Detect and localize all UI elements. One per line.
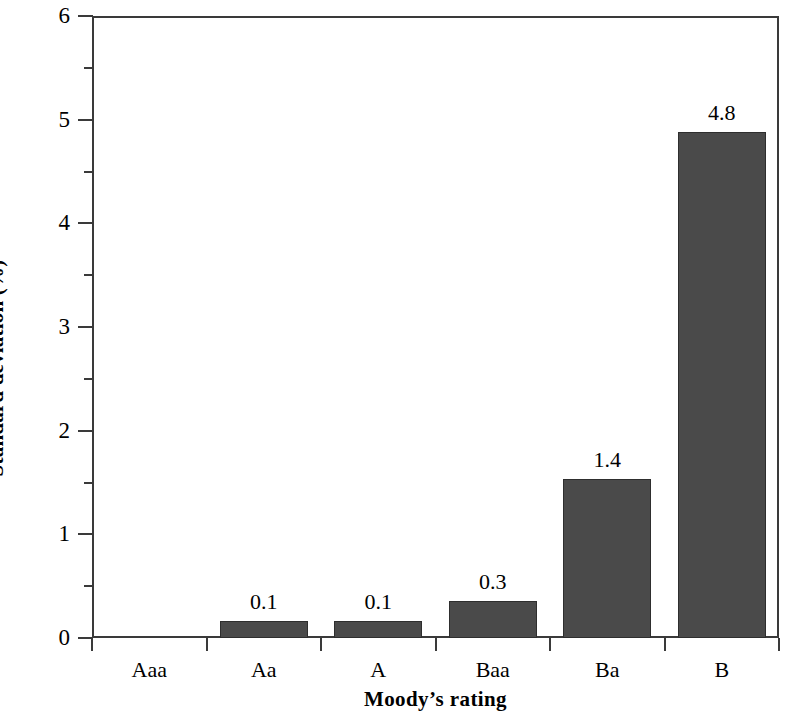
x-tick-label: B <box>665 655 780 685</box>
bar-value-label: 0.1 <box>207 589 322 615</box>
tick-mark <box>84 171 93 173</box>
x-axis-title: Moody’s rating <box>92 687 779 712</box>
bar-b <box>678 132 766 638</box>
x-tick-mark <box>91 638 93 651</box>
x-tick-mark <box>206 638 208 651</box>
bar-value-label: 4.8 <box>665 100 780 126</box>
tick-mark <box>84 274 93 276</box>
x-tick-mark <box>664 638 666 651</box>
bar-aa <box>220 621 308 638</box>
x-tick-label: Baa <box>436 655 551 685</box>
x-tick-label: Aaa <box>92 655 207 685</box>
tick-mark <box>78 222 93 224</box>
y-tick-label: 2 <box>0 416 70 446</box>
y-axis-title: Standard deviation (%) <box>0 218 9 518</box>
x-tick-mark <box>778 638 780 651</box>
bar-ba <box>563 479 651 638</box>
bar-baa <box>449 601 537 638</box>
tick-mark <box>78 15 93 17</box>
x-tick-mark <box>549 638 551 651</box>
tick-mark <box>78 119 93 121</box>
bar-value-label: 1.4 <box>550 447 665 473</box>
x-tick-label: Aa <box>207 655 322 685</box>
x-tick-label: A <box>321 655 436 685</box>
y-tick-label: 5 <box>0 105 70 135</box>
y-tick-label: 3 <box>0 312 70 342</box>
tick-mark <box>84 585 93 587</box>
tick-mark <box>78 430 93 432</box>
tick-mark <box>78 533 93 535</box>
x-tick-label: Ba <box>550 655 665 685</box>
tick-mark <box>84 482 93 484</box>
y-tick-label: 4 <box>0 208 70 238</box>
tick-mark <box>84 378 93 380</box>
bar-chart-figure: Standard deviation (%) 0123456 AaaAaABaa… <box>0 0 793 724</box>
x-tick-mark <box>435 638 437 651</box>
bar-value-label: 0.1 <box>321 589 436 615</box>
bar-value-label: 0.3 <box>436 569 551 595</box>
tick-mark <box>78 326 93 328</box>
y-tick-label: 0 <box>0 623 70 653</box>
y-tick-label: 1 <box>0 519 70 549</box>
tick-mark <box>84 67 93 69</box>
x-tick-mark <box>320 638 322 651</box>
bar-a <box>334 621 422 638</box>
y-tick-label: 6 <box>0 1 70 31</box>
